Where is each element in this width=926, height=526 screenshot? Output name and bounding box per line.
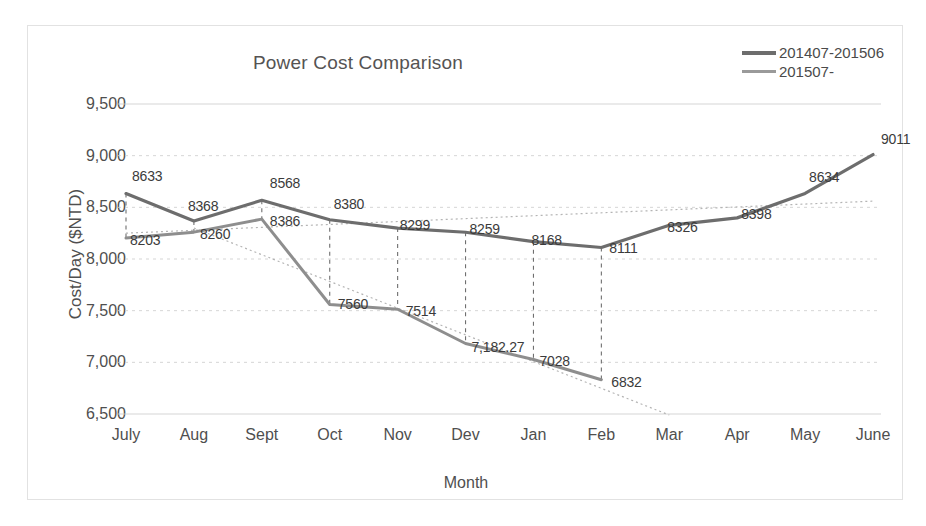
data-point-label: 9011: [881, 131, 910, 147]
data-point-label: 8299: [400, 217, 430, 233]
data-point-label: 7560: [338, 296, 368, 312]
data-point-label: 7514: [406, 303, 436, 319]
data-point-label: 8260: [200, 226, 230, 242]
data-point-label: 8368: [188, 198, 218, 214]
data-point-label: 6832: [611, 374, 641, 390]
plot-area: [28, 26, 904, 501]
chart-frame: Power Cost Comparison 201407-201506 2015…: [27, 25, 903, 500]
data-point-label: 7028: [539, 353, 569, 369]
data-point-label: 8168: [531, 232, 561, 248]
data-point-label: 8380: [334, 196, 364, 212]
data-point-label: 8203: [130, 232, 160, 248]
data-point-label: 8568: [270, 175, 300, 191]
data-point-label: 8398: [741, 206, 771, 222]
data-point-label: 7,182.27: [472, 339, 525, 355]
data-point-label: 8634: [809, 169, 839, 185]
gridlines: [118, 104, 881, 414]
data-point-label: 8111: [609, 240, 637, 256]
data-point-label: 8259: [470, 221, 500, 237]
data-point-label: 8386: [270, 213, 300, 229]
data-point-label: 8633: [132, 168, 162, 184]
data-point-label: 8326: [667, 219, 697, 235]
